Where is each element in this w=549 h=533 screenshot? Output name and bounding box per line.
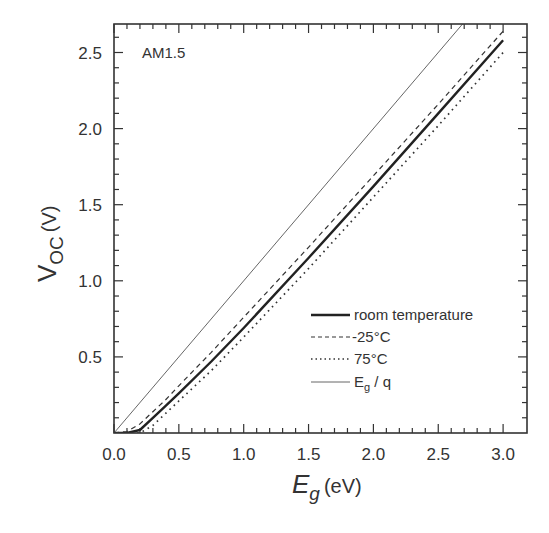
svg-text:room temperature: room temperature	[354, 306, 473, 323]
x-tick-label: 0.5	[167, 445, 191, 464]
axis-ticks	[114, 24, 527, 433]
voc-vs-bandgap-chart: 0.00.51.01.52.02.53.0 0.51.01.52.02.5 AM…	[0, 0, 549, 533]
y-tick-label: 1.5	[78, 196, 102, 215]
legend-item-minus25c: -25°C	[311, 328, 391, 345]
x-tick-label: 2.5	[426, 445, 450, 464]
x-axis-title: Eg(eV)	[292, 469, 362, 504]
annotation-am15: AM1.5	[142, 44, 185, 61]
x-tick-label: 1.5	[297, 445, 321, 464]
series-line-3	[114, 24, 463, 433]
series-line-0	[114, 40, 503, 433]
x-tick-labels: 0.00.51.01.52.02.53.0	[102, 445, 515, 464]
legend-item-eg-over-q: Eg / q	[311, 373, 391, 393]
svg-text:75°C: 75°C	[354, 350, 388, 367]
series-layer	[114, 24, 503, 433]
y-tick-labels: 0.51.01.52.02.5	[78, 44, 102, 367]
y-tick-label: 2.0	[78, 120, 102, 139]
y-tick-label: 0.5	[78, 348, 102, 367]
svg-text:-25°C: -25°C	[352, 328, 391, 345]
legend-item-room-temperature: room temperature	[311, 306, 473, 323]
x-tick-label: 2.0	[362, 445, 386, 464]
y-tick-label: 1.0	[78, 272, 102, 291]
x-tick-label: 3.0	[491, 445, 515, 464]
legend-item-75c: 75°C	[311, 350, 388, 367]
y-axis-title: VOC(V)	[32, 205, 67, 282]
legend: room temperature -25°C 75°C Eg / q	[311, 306, 473, 393]
y-tick-label: 2.5	[78, 44, 102, 63]
svg-text:Eg / q: Eg / q	[354, 373, 391, 393]
x-tick-label: 1.0	[232, 445, 256, 464]
x-tick-label: 0.0	[102, 445, 126, 464]
series-line-1	[114, 31, 503, 433]
series-line-2	[114, 53, 503, 434]
plot-frame	[114, 24, 527, 433]
